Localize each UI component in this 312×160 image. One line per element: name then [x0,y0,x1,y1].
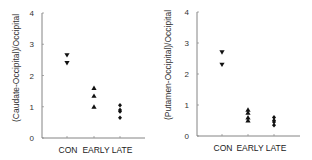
y-tick-label: 3 [30,40,35,49]
x-category-label: EARLY [236,143,264,153]
y-tick-label: 1 [185,101,190,110]
diamond-marker [272,123,276,128]
y-tick-label: 3 [185,39,190,48]
y-tick-label: 1 [30,103,35,112]
triangle-down-marker [64,53,69,57]
x-category-label: LATE [112,145,133,155]
triangle-up-marker [91,104,96,108]
y-tick-label: 4 [30,9,35,18]
y-tick-label: 2 [30,72,35,81]
x-category-label: EARLY [82,145,110,155]
triangle-down-marker [219,63,224,67]
triangle-down-marker [219,50,224,54]
y-tick-label: 4 [185,8,190,17]
x-category-label: LATE [266,143,287,153]
triangle-up-marker [91,86,96,90]
x-category-label: CON [59,145,78,155]
plot-area: 01234CONEARLYLATE [0,0,156,160]
triangle-down-marker [64,61,69,65]
plot-area: 01234CONEARLYLATE [156,0,312,160]
x-category-label: CON [214,143,233,153]
chart-caudate: (Caudate-Occipital)/Occipital 01234CONEA… [0,0,156,160]
y-tick-label: 0 [30,134,35,143]
y-tick-label: 2 [185,70,190,79]
chart-putamen: (Putamen-Occipital)/Occipital 01234CONEA… [156,0,312,160]
triangle-up-marker [91,93,96,97]
diamond-marker [118,103,122,108]
diamond-marker [118,115,122,120]
y-tick-label: 0 [185,132,190,141]
